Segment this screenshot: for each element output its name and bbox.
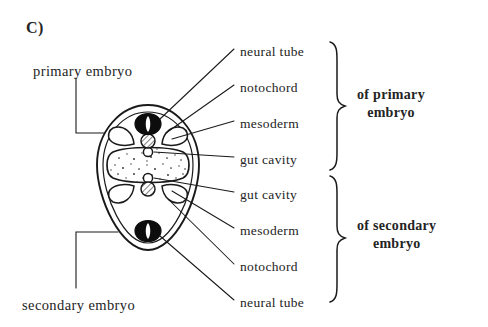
label-gut-cavity-top: gut cavity xyxy=(240,153,297,167)
gut-cavity-endoderm-region xyxy=(107,147,189,182)
group-label-primary-line2: embryo xyxy=(357,106,425,120)
leader-secondary-embryo xyxy=(76,232,118,288)
leader-neural-tube-top xyxy=(160,49,234,119)
group-label-secondary-line1: of secondary xyxy=(357,218,436,233)
gut-cavity-lumen-bottom xyxy=(143,173,152,182)
group-label-primary-line1: of primary xyxy=(357,87,425,102)
notochord-secondary xyxy=(141,182,155,196)
brace-primary-embryo xyxy=(330,42,345,170)
label-gut-cavity-bottom: gut cavity xyxy=(240,188,297,202)
label-neural-tube-bottom: neural tube xyxy=(240,296,304,310)
label-mesoderm-top: mesoderm xyxy=(240,117,299,131)
label-notochord-top: notochord xyxy=(240,81,298,95)
leader-neural-tube-bottom xyxy=(160,236,234,300)
label-notochord-bottom: notochord xyxy=(240,260,298,274)
panel-label: C) xyxy=(26,20,44,36)
notochord-primary xyxy=(141,134,155,148)
label-mesoderm-bottom: mesoderm xyxy=(240,224,299,238)
brace-secondary-embryo xyxy=(330,176,345,302)
group-label-secondary-embryo: of secondary embryo xyxy=(357,219,436,251)
label-primary-embryo: primary embryo xyxy=(33,64,132,79)
neural-tube-primary xyxy=(135,114,161,135)
figure-panel: C) primary embryo secondary embryo neura… xyxy=(0,0,488,327)
group-label-primary-embryo: of primary embryo xyxy=(357,88,425,120)
notochord-circle-bottom xyxy=(141,182,155,196)
label-neural-tube-top: neural tube xyxy=(240,45,304,59)
neural-tube-secondary xyxy=(135,221,161,242)
notochord-circle-top xyxy=(141,134,155,148)
leader-notochord-top xyxy=(166,85,234,133)
gut-cavity-lumen-top xyxy=(143,147,152,156)
group-label-secondary-line2: embryo xyxy=(357,237,436,251)
label-secondary-embryo: secondary embryo xyxy=(22,298,135,313)
braces xyxy=(330,42,345,302)
